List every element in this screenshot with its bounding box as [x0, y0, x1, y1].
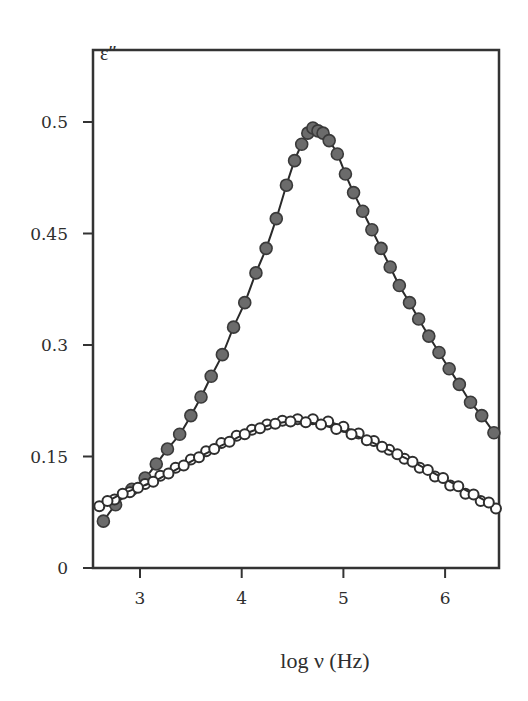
open-circle-marker — [438, 473, 448, 483]
open-circle-marker — [362, 435, 372, 445]
open-circle-marker — [240, 429, 250, 439]
filled-circle-marker — [161, 443, 173, 455]
dielectric-loss-chart: 00.150.30.450.5 3456 ε″ log ν (Hz) — [0, 0, 528, 701]
filled-circle-marker — [216, 349, 228, 361]
y-axis-ticks: 00.150.30.450.5 — [30, 112, 93, 578]
filled-circle-marker — [185, 410, 197, 422]
filled-circle-marker — [250, 267, 262, 279]
open-circle-marker — [194, 452, 204, 462]
open-circle-marker — [102, 496, 112, 506]
filled-circle-marker — [348, 187, 360, 199]
filled-circle-marker — [228, 321, 240, 333]
open-circle-marker — [209, 444, 219, 454]
filled-circle-marker — [331, 148, 343, 160]
open-circle-marker — [331, 424, 341, 434]
x-tick-label: 4 — [236, 588, 247, 608]
filled-circle-marker — [323, 135, 335, 147]
filled-circle-marker — [375, 242, 387, 254]
filled-circle-marker — [270, 213, 282, 225]
filled-circle-marker — [205, 370, 217, 382]
x-tick-label: 3 — [135, 588, 146, 608]
filled-circle-marker — [404, 297, 416, 309]
filled-circle-marker — [357, 205, 369, 217]
y-tick-label: 0 — [57, 558, 68, 578]
filled-circle-marker — [453, 378, 465, 390]
filled-circle-marker — [150, 458, 162, 470]
open-circle-marker — [224, 437, 234, 447]
filled-circle-marker — [339, 168, 351, 180]
open-circle-marker — [316, 420, 326, 430]
open-circle-marker — [270, 419, 280, 429]
open-circle-marker — [301, 417, 311, 427]
y-tick-label: 0.3 — [41, 335, 68, 355]
open-circle-marker — [179, 460, 189, 470]
filled-circle-marker — [296, 138, 308, 150]
open-circle-marker — [484, 498, 494, 508]
filled-circle-marker — [476, 410, 488, 422]
filled-circle-marker — [289, 155, 301, 167]
y-tick-label: 0.45 — [30, 224, 68, 244]
plot-border — [93, 50, 499, 568]
open-circle-marker — [347, 429, 357, 439]
fit-line — [107, 421, 488, 502]
open-circle-marker — [148, 477, 158, 487]
open-circle-marker — [133, 483, 143, 493]
filled-circle-marker — [413, 313, 425, 325]
filled-circle-marker — [97, 515, 109, 527]
filled-circle-marker — [443, 363, 455, 375]
filled-circle-marker — [260, 242, 272, 254]
y-tick-label: 0.5 — [41, 112, 68, 132]
open-circle-marker — [163, 469, 173, 479]
open-circle-marker — [255, 423, 265, 433]
plot-frame — [93, 50, 499, 568]
filled-circle-marker — [433, 346, 445, 358]
x-axis-ticks: 3456 — [135, 568, 451, 608]
filled-circle-marker — [195, 391, 207, 403]
filled-circle-marker — [393, 280, 405, 292]
filled-circle-marker — [174, 428, 186, 440]
x-tick-label: 5 — [338, 588, 349, 608]
open-circle-marker — [453, 481, 463, 491]
filled-circle-marker — [366, 224, 378, 236]
open-circle-marker — [408, 457, 418, 467]
open-circle-marker — [286, 417, 296, 427]
filled-circle-marker — [465, 396, 477, 408]
x-tick-label: 6 — [440, 588, 451, 608]
filled-circle-marker — [384, 261, 396, 273]
filled-circle-marker — [423, 330, 435, 342]
open-circle-marker — [469, 489, 479, 499]
open-circle-marker — [118, 489, 128, 499]
filled-circle-marker — [280, 179, 292, 191]
filled-circle-series — [97, 122, 500, 527]
open-circle-marker — [423, 465, 433, 475]
open-circle-marker — [377, 442, 387, 452]
open-circle-marker — [392, 449, 402, 459]
filled-circle-marker — [239, 297, 251, 309]
filled-circle-marker — [488, 427, 500, 439]
y-tick-label: 0.15 — [30, 447, 68, 467]
x-axis-title: log ν (Hz) — [280, 648, 369, 673]
y-axis-title: ε″ — [100, 42, 117, 64]
data-series — [94, 122, 501, 527]
